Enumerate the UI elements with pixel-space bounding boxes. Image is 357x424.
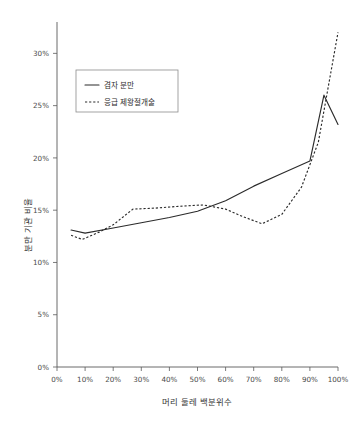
chart-figure: 0%5%10%15%20%25%30% 분만 기관 비율 0%10%20%30%… <box>0 0 357 424</box>
x-tick-label: 70% <box>246 375 262 384</box>
y-tick-label: 20% <box>33 154 49 163</box>
x-tick-label: 60% <box>218 375 234 384</box>
chart-background <box>0 0 357 424</box>
y-axis-title: 분만 기관 비율 <box>23 198 33 251</box>
legend-label-1: 겸자 분만 <box>104 80 134 90</box>
x-tick-label: 80% <box>274 375 290 384</box>
x-tick-label: 40% <box>161 375 177 384</box>
line-chart: 0%5%10%15%20%25%30% 분만 기관 비율 0%10%20%30%… <box>0 0 357 424</box>
x-tick-label: 0% <box>51 375 63 384</box>
x-axis-title: 머리 둘레 백분위수 <box>162 397 231 407</box>
y-tick-label: 0% <box>38 363 50 372</box>
x-tick-label: 100% <box>328 375 349 384</box>
y-tick-label: 25% <box>33 101 49 110</box>
y-tick-label: 15% <box>33 206 49 215</box>
x-tick-label: 50% <box>190 375 206 384</box>
y-tick-label: 5% <box>38 310 50 319</box>
x-tick-label: 30% <box>133 375 149 384</box>
chart-legend: 겸자 분만응급 제왕절개술 <box>76 70 178 112</box>
legend-label-2: 응급 제왕절개술 <box>104 97 155 107</box>
y-tick-label: 10% <box>33 258 49 267</box>
y-tick-label: 30% <box>33 49 49 58</box>
x-tick-label: 20% <box>105 375 121 384</box>
x-tick-label: 90% <box>302 375 318 384</box>
x-tick-label: 10% <box>77 375 93 384</box>
